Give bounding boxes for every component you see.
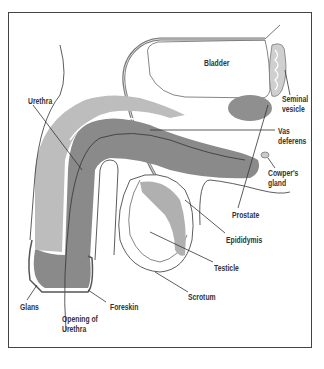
label-epididymis: Epididymis	[226, 235, 262, 245]
label-opening-of-urethra: Opening of Urethra	[62, 314, 98, 334]
label-cowpers-gland: Cowper's gland	[268, 168, 298, 188]
label-seminal-vesicle: Seminal vesicle	[282, 94, 308, 114]
seminal-vesicle-shape	[269, 44, 286, 97]
prostate-shape	[228, 95, 272, 121]
label-testicle: Testicle	[214, 263, 239, 273]
label-vas-deferens: Vas deferens	[278, 126, 306, 146]
label-prostate: Prostate	[232, 210, 259, 220]
ureter	[265, 25, 280, 39]
label-glans: Glans	[20, 302, 39, 312]
label-scrotum: Scrotum	[188, 292, 216, 302]
bladder-shape	[147, 40, 270, 98]
foreskin-fold	[95, 160, 118, 260]
label-bladder: Bladder	[204, 58, 229, 68]
label-urethra: Urethra	[28, 96, 52, 106]
label-foreskin: Foreskin	[110, 302, 138, 312]
cowpers-gland-shape	[261, 152, 269, 158]
